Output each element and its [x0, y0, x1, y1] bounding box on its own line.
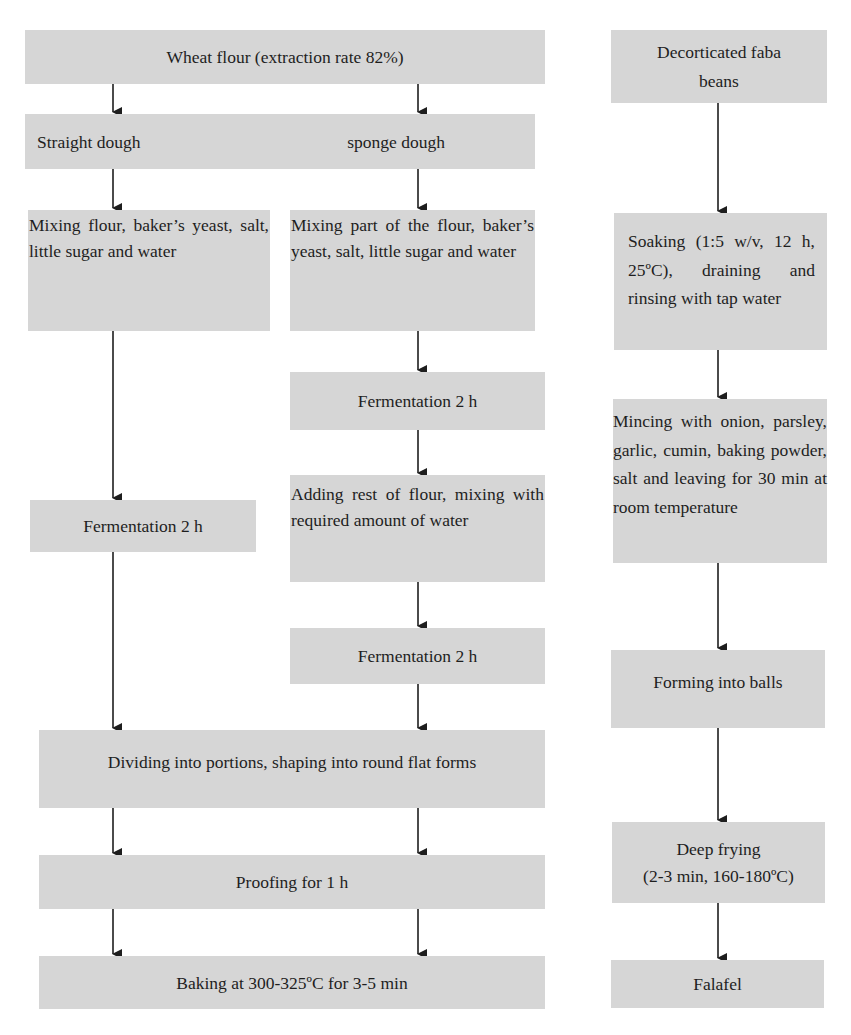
node-label-line2: (2-3 min, 160-180ºC): [643, 863, 794, 890]
node-faba-beans: Decorticated faba beans: [611, 30, 827, 103]
node-label: Baking at 300-325ºC for 3-5 min: [176, 970, 407, 996]
node-proofing: Proofing for 1 h: [39, 855, 545, 909]
node-sponge-fermentation-2: Fermentation 2 h: [290, 628, 545, 684]
node-falafel: Falafel: [611, 960, 824, 1008]
node-straight-mixing: Mixing flour, baker’s yeast, salt, littl…: [28, 210, 270, 331]
node-forming-balls: Forming into balls: [611, 650, 825, 728]
node-soaking: Soaking (1:5 w/v, 12 h, 25ºC), draining …: [614, 213, 827, 350]
node-sponge-fermentation-1: Fermentation 2 h: [290, 372, 545, 430]
node-wheat-flour: Wheat flour (extraction rate 82%): [25, 30, 545, 84]
node-label: Fermentation 2 h: [83, 513, 203, 539]
node-label: Fermentation 2 h: [358, 388, 478, 414]
node-baking: Baking at 300-325ºC for 3-5 min: [39, 956, 545, 1009]
node-sponge-mixing: Mixing part of the flour, baker’s yeast,…: [290, 210, 535, 331]
node-label: Mincing with onion, parsley, garlic, cum…: [613, 411, 827, 517]
label-straight-dough: Straight dough: [37, 129, 141, 155]
node-label: Wheat flour (extraction rate 82%): [166, 44, 403, 70]
node-label: Soaking (1:5 w/v, 12 h, 25ºC), draining …: [628, 231, 815, 308]
node-label: Forming into balls: [653, 669, 782, 695]
node-sponge-adding-flour: Adding rest of flour, mixing with requir…: [290, 475, 545, 582]
node-label: Mixing flour, baker’s yeast, salt, littl…: [29, 215, 269, 261]
node-mincing: Mincing with onion, parsley, garlic, cum…: [613, 399, 827, 563]
node-label: Proofing for 1 h: [236, 869, 348, 895]
node-label: Adding rest of flour, mixing with requir…: [291, 484, 544, 530]
label-sponge-dough: sponge dough: [347, 129, 445, 155]
node-dough-methods: Straight dough sponge dough: [25, 114, 535, 169]
node-label: Dividing into portions, shaping into rou…: [108, 749, 476, 775]
node-label-line1: Deep frying: [676, 836, 760, 863]
node-deep-frying: Deep frying (2-3 min, 160-180ºC): [612, 822, 825, 903]
node-label: Mixing part of the flour, baker’s yeast,…: [291, 215, 534, 261]
node-dividing: Dividing into portions, shaping into rou…: [39, 730, 545, 808]
node-label-line2: beans: [699, 67, 739, 96]
node-label: Fermentation 2 h: [358, 643, 478, 669]
node-label: Falafel: [693, 971, 742, 997]
node-straight-fermentation: Fermentation 2 h: [30, 500, 256, 552]
node-label-line1: Decorticated faba: [657, 38, 781, 67]
